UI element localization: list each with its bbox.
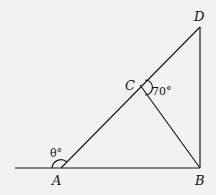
label-C: C <box>125 78 135 93</box>
label-D: D <box>193 9 205 24</box>
line-AD <box>61 27 200 168</box>
label-B: B <box>194 173 205 188</box>
angle-label-theta: θ° <box>50 147 62 160</box>
geometry-diagram: D C A B θ° 70° <box>0 0 216 195</box>
angle-label-70: 70° <box>152 85 172 98</box>
diagram-canvas: D C A B θ° 70° <box>0 0 216 195</box>
label-A: A <box>51 173 61 188</box>
